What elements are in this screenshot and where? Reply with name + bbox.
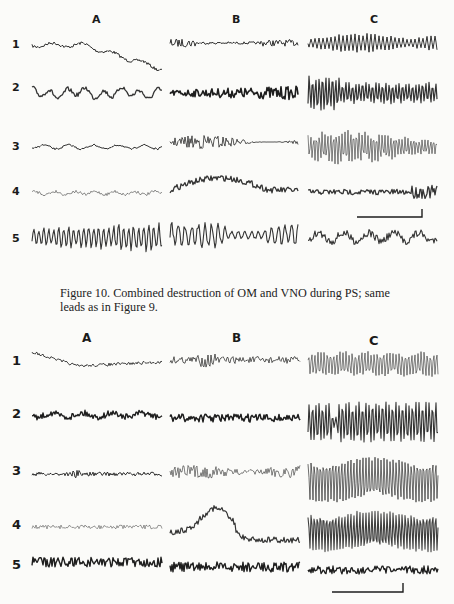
eeg-trace: [308, 33, 437, 52]
eeg-trace: [170, 354, 300, 367]
eeg-trace: [308, 185, 437, 198]
eeg-trace: [32, 42, 162, 71]
eeg-trace: [170, 223, 298, 248]
eeg-trace: [170, 562, 300, 572]
eeg-trace: [170, 414, 300, 422]
eeg-trace: [32, 190, 162, 196]
eeg-trace: [32, 223, 162, 252]
eeg-trace: [32, 557, 162, 567]
eeg-traces-bottom: [0, 320, 454, 604]
scale-bar: [357, 209, 422, 217]
eeg-trace: [170, 176, 298, 193]
eeg-trace: [32, 144, 162, 150]
eeg-trace: [32, 87, 162, 100]
eeg-trace: [170, 39, 298, 47]
eeg-trace: [308, 566, 438, 574]
eeg-trace: [308, 457, 438, 502]
eeg-trace: [308, 511, 438, 551]
eeg-trace: [308, 76, 437, 110]
eeg-traces-top: [0, 0, 454, 270]
eeg-trace: [32, 525, 162, 529]
eeg-trace: [170, 136, 298, 149]
figure-bottom: A B C 1 2 3 4 5: [0, 320, 454, 604]
eeg-trace: [170, 465, 300, 478]
figure-caption: Figure 10. Combined destruction of OM an…: [60, 286, 400, 314]
eeg-trace: [170, 86, 298, 99]
eeg-trace: [308, 351, 438, 376]
eeg-trace: [32, 410, 162, 420]
eeg-trace: [32, 352, 162, 367]
eeg-trace: [170, 506, 300, 543]
figure-top: A B C 1 2 3 4 5: [0, 0, 454, 270]
eeg-trace: [32, 470, 162, 477]
eeg-trace: [308, 230, 437, 245]
eeg-trace: [308, 130, 437, 164]
eeg-trace: [308, 402, 438, 442]
scale-bar: [332, 583, 403, 592]
